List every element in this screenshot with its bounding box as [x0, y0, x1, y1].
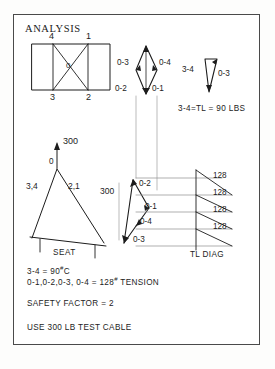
plan-center-label: 0 — [66, 62, 70, 70]
polygon-label-v4: 0-3 — [133, 236, 145, 244]
diamond-label-lower-right: 0-1 — [152, 85, 164, 93]
diamond-label-lower-left: 0-2 — [115, 85, 127, 93]
tl-rung-value-2: 128 — [213, 189, 227, 197]
note-cable: USE 300 LB TEST CABLE — [27, 323, 131, 332]
note-safety-factor: SAFETY FACTOR = 2 — [27, 299, 114, 308]
projection-lines — [136, 96, 157, 190]
plan-corner-label-bottom-right: 2 — [86, 93, 91, 102]
analysis-sheet: ANALYSIS — [0, 0, 275, 369]
tl-diagram-caption: TL DIAG — [190, 250, 224, 259]
elevation-seat-label: SEAT — [53, 249, 76, 257]
note-tension: 0-1,0-2,0-3, 0-4 = 128# TENSION — [27, 276, 159, 287]
note-compression: 3-4 = 90#C — [27, 265, 70, 276]
analysis-linework — [0, 0, 275, 369]
tl-result-text: 3-4=TL = 90 LBS — [178, 104, 245, 113]
tl-triangle-label-left: 3-4 — [182, 66, 194, 74]
elevation-load-label: 300 — [63, 137, 78, 146]
true-length-triangle-shape — [205, 59, 217, 92]
seat-elevation-shape — [30, 142, 106, 258]
plan-view-rectangle — [32, 44, 110, 90]
note-cable-text: USE 300 LB TEST CABLE — [27, 323, 131, 332]
polygon-load-label: 300 — [100, 187, 114, 196]
note-compression-text: 3-4 = 90 — [27, 267, 60, 276]
diamond-label-upper-right: 0-4 — [159, 59, 171, 67]
note-tension-tail: TENSION — [118, 278, 159, 287]
tl-rung-value-4: 128 — [213, 223, 227, 231]
elevation-apex-label: 0 — [49, 158, 54, 166]
plan-corner-label-top-left: 4 — [49, 32, 54, 41]
polygon-label-v1: 0-2 — [139, 180, 151, 188]
tl-rung-value-3: 128 — [213, 206, 227, 214]
elevation-right-member-label: 2,1 — [68, 182, 80, 191]
note-compression-tail: C — [64, 267, 70, 276]
tl-rung-value-1: 128 — [213, 172, 227, 180]
plan-corner-label-top-right: 1 — [86, 32, 91, 41]
diamond-label-upper-left: 0-3 — [117, 59, 129, 67]
polygon-label-v3: 0-4 — [140, 218, 152, 226]
tl-triangle-label-right: 0-3 — [218, 70, 230, 78]
polygon-label-v2: 0-1 — [145, 203, 157, 211]
note-tension-text: 0-1,0-2,0-3, 0-4 = 128 — [27, 278, 114, 287]
elevation-left-member-label: 3,4 — [26, 182, 38, 191]
note-safety-factor-text: SAFETY FACTOR = 2 — [27, 299, 114, 308]
plan-corner-label-bottom-left: 3 — [50, 93, 55, 102]
